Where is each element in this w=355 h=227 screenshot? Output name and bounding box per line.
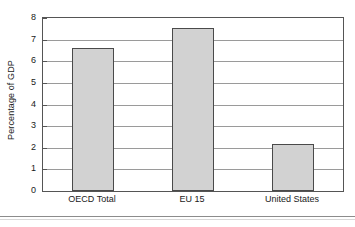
bar-oecd-total[interactable] (72, 48, 114, 191)
y-axis-tick-labels: 012345678 (22, 17, 40, 192)
y-axis-tick-label: 0 (31, 185, 36, 195)
y-axis-tick-label: 1 (31, 163, 36, 173)
footer-divider (0, 216, 355, 217)
x-axis-tick-labels: OECD TotalEU 15United States (42, 194, 344, 210)
y-axis-tickmark (43, 18, 47, 19)
y-axis-tickmark (43, 126, 47, 127)
plot-area (42, 17, 344, 192)
y-axis-tickmark (43, 105, 47, 106)
x-axis-tick-label: EU 15 (179, 194, 204, 204)
bar-chart-figure: Percentage of GDP 012345678 OECD TotalEU… (0, 0, 355, 227)
y-axis-tickmark (43, 169, 47, 170)
y-axis-tick-label: 5 (31, 77, 36, 87)
x-axis-tick-label: OECD Total (68, 194, 115, 204)
y-axis-tickmark (43, 191, 47, 192)
bar-united-states[interactable] (272, 144, 314, 191)
y-axis-tickmark (43, 61, 47, 62)
y-axis-tick-label: 6 (31, 55, 36, 65)
y-axis-tickmark (43, 148, 47, 149)
y-axis-tickmark (43, 40, 47, 41)
footer-divider-secondary (0, 219, 355, 220)
x-axis-tick-label: United States (265, 194, 319, 204)
bar-eu-15[interactable] (172, 28, 214, 191)
y-axis-tick-label: 4 (31, 99, 36, 109)
y-axis-tick-label: 2 (31, 142, 36, 152)
y-axis-tick-label: 3 (31, 120, 36, 130)
y-axis-title: Percentage of GDP (0, 0, 22, 200)
y-axis-tickmark (43, 83, 47, 84)
y-axis-tick-label: 8 (31, 12, 36, 22)
y-axis-tick-label: 7 (31, 34, 36, 44)
y-axis-title-text: Percentage of GDP (6, 60, 16, 140)
